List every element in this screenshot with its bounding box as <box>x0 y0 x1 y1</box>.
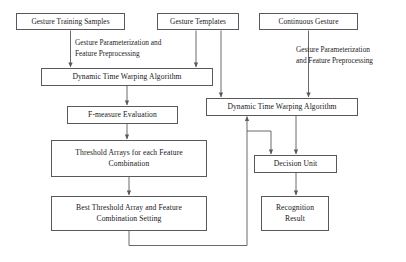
label-right-preprocessing: Gesture Parameterization and Feature Pre… <box>296 44 373 67</box>
node-decision-unit[interactable]: Decision Unit <box>254 155 337 173</box>
node-gesture-training-samples[interactable]: Gesture Training Samples <box>16 13 125 30</box>
node-dtw-right[interactable]: Dynamic Time Warping Algorithm <box>206 98 358 116</box>
edge-feedback-branch-to-decision-unit <box>247 131 271 154</box>
label-left-preprocessing: Gesture Parameterization and Feature Pre… <box>75 37 161 60</box>
label-right-preprocessing-line1: Gesture Parameterization <box>296 44 373 55</box>
node-dtw-right-label: Dynamic Time Warping Algorithm <box>227 102 336 112</box>
node-fmeasure-evaluation[interactable]: F-measure Evaluation <box>67 106 178 124</box>
flowchart-canvas: Gesture Training Samples Gesture Templat… <box>0 0 406 262</box>
label-left-preprocessing-line2: Feature Preprocessing <box>75 48 161 59</box>
node-best-threshold-array[interactable]: Best Threshold Array and Feature Combina… <box>51 196 207 231</box>
node-gesture-templates[interactable]: Gesture Templates <box>157 13 239 30</box>
node-continuous-gesture[interactable]: Continuous Gesture <box>259 13 358 30</box>
label-left-preprocessing-line1: Gesture Parameterization and <box>75 37 161 48</box>
node-best-threshold-array-line2: Combination Setting <box>97 214 162 224</box>
node-dtw-left-label: Dynamic Time Warping Algorithm <box>72 72 181 82</box>
node-gesture-templates-label: Gesture Templates <box>170 17 226 27</box>
node-dtw-left[interactable]: Dynamic Time Warping Algorithm <box>41 68 213 86</box>
node-continuous-gesture-label: Continuous Gesture <box>279 17 339 27</box>
node-recognition-result-line2: Result <box>285 214 305 224</box>
node-threshold-arrays[interactable]: Threshold Arrays for each Feature Combin… <box>51 140 207 177</box>
node-fmeasure-evaluation-label: F-measure Evaluation <box>88 110 157 120</box>
node-decision-unit-label: Decision Unit <box>274 159 318 169</box>
node-threshold-arrays-line2: Combination <box>109 159 150 169</box>
node-threshold-arrays-line1: Threshold Arrays for each Feature <box>75 148 182 158</box>
node-gesture-training-samples-label: Gesture Training Samples <box>31 17 109 27</box>
node-recognition-result-line1: Recognition <box>276 203 314 213</box>
label-right-preprocessing-line2: and Feature Preprocessing <box>296 55 373 66</box>
node-recognition-result[interactable]: Recognition Result <box>261 196 329 231</box>
node-best-threshold-array-line1: Best Threshold Array and Feature <box>76 203 182 213</box>
